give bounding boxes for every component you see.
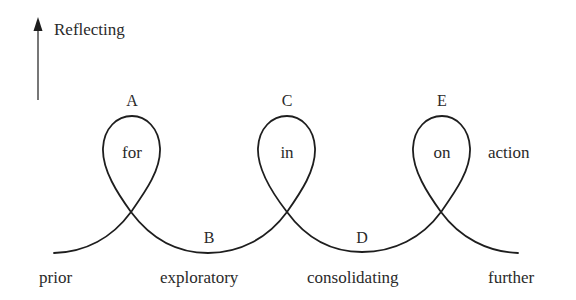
reflecting-loop-diagram: Reflecting A B C D E for in on action pr… [0, 0, 576, 300]
point-d-label: D [356, 229, 368, 246]
loop-word-for: for [122, 143, 142, 162]
loop-word-action: action [488, 143, 530, 162]
axis-label: Reflecting [54, 20, 125, 39]
point-b-label: B [204, 229, 215, 246]
point-a-label: A [126, 92, 138, 109]
stage-further: further [488, 268, 535, 287]
stage-prior: prior [39, 268, 72, 287]
point-c-label: C [282, 92, 293, 109]
reflecting-axis [34, 17, 43, 100]
loop-word-in: in [280, 143, 294, 162]
loop-curve [54, 116, 518, 253]
point-e-label: E [437, 92, 447, 109]
arrow-up-icon [34, 17, 43, 31]
loop-word-on: on [434, 143, 452, 162]
stage-consolidating: consolidating [307, 268, 399, 287]
stage-exploratory: exploratory [160, 268, 239, 287]
